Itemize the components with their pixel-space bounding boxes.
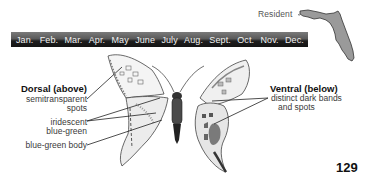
month-feb: Feb. [40,35,58,45]
month-nov: Nov. [260,35,278,45]
month-apr: Apr. [89,35,105,45]
dorsal-hindwing [120,97,168,167]
month-oct: Oct. [237,35,254,45]
month-dec: Dec. [285,35,304,45]
dorsal-spots-label-line2: spots [67,103,87,113]
month-mar: Mar. [65,35,83,45]
flight-period-bar: Jan. Feb. Mar. Apr. May June July Aug. S… [11,32,308,47]
month-sep: Sept. [209,35,231,45]
dorsal-forewing [108,55,164,98]
month-jun: June [135,35,155,45]
ventral-wings [195,60,249,172]
month-aug: Aug. [184,35,203,45]
month-jul: July [161,35,177,45]
ventral-bands-label-line2: and spots [278,102,315,112]
month-may: May [111,35,128,45]
resident-label: Resident [258,9,292,19]
month-jan: Jan. [16,35,33,45]
butterfly-body [172,92,182,144]
page-number: 129 [336,160,358,175]
dorsal-body-label: blue-green body [26,140,87,150]
dorsal-heading: Dorsal (above) [21,83,87,94]
butterfly-illustration [100,48,280,180]
dorsal-iridescent-label-line2: blue-green [46,126,87,136]
